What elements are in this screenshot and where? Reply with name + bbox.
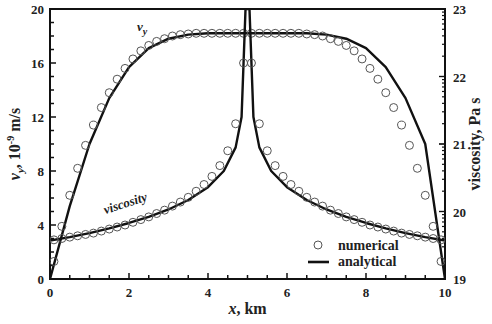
legend-numerical-marker xyxy=(314,241,322,249)
viscosity-annotation: viscosity xyxy=(102,189,149,217)
x-tick-label: 8 xyxy=(363,285,370,300)
y-right-tick-label: 20 xyxy=(453,205,466,220)
y-left-tick-label: 8 xyxy=(38,164,45,179)
v-y-numerical-marker xyxy=(89,121,97,129)
viscosity-numerical-marker xyxy=(279,172,287,180)
vy-annotation: vy xyxy=(137,19,148,37)
y-left-tick-label: 0 xyxy=(38,272,45,287)
legend: numericalanalytical xyxy=(308,238,399,269)
v-y-numerical-marker xyxy=(421,191,429,199)
y-left-tick-label: 12 xyxy=(31,110,44,125)
v-y-numerical-marker xyxy=(398,121,406,129)
legend-numerical-label: numerical xyxy=(338,238,399,253)
v-y-numerical-marker xyxy=(405,141,413,149)
v-y-numerical-marker xyxy=(429,222,437,230)
v-y-numerical-marker xyxy=(342,41,350,49)
y-right-tick-label: 19 xyxy=(453,272,467,287)
viscosity-numerical-marker xyxy=(208,172,216,180)
x-axis-title: x, km xyxy=(227,300,267,317)
viscosity-numerical-marker xyxy=(263,147,271,155)
viscosity-numerical-marker xyxy=(216,162,224,170)
chart: 02468100481216201920212223vyviscosityx, … xyxy=(0,0,492,324)
viscosity-numerical-marker xyxy=(255,120,263,128)
viscosity-numerical-marker xyxy=(224,147,232,155)
y-left-tick-label: 16 xyxy=(31,56,45,71)
y-left-tick-label: 4 xyxy=(38,218,45,233)
v-y-numerical-marker xyxy=(390,104,398,112)
v-y-numerical-marker xyxy=(374,75,382,83)
x-tick-label: 2 xyxy=(126,285,133,300)
v-y-numerical-marker xyxy=(137,47,145,55)
y-right-tick-label: 23 xyxy=(453,2,467,17)
y-right-tick-label: 21 xyxy=(453,137,466,152)
v-y-numerical-marker xyxy=(334,37,342,45)
x-tick-label: 4 xyxy=(205,285,212,300)
v-y-numerical-marker xyxy=(350,47,358,55)
v-y-numerical-marker xyxy=(358,55,366,63)
legend-analytical-label: analytical xyxy=(338,254,396,269)
viscosity-numerical-marker xyxy=(271,162,279,170)
v-y-numerical-marker xyxy=(413,164,421,172)
y-right-axis-title: viscosity, Pa s xyxy=(466,98,484,191)
v-y-numerical-marker xyxy=(366,64,374,72)
y-right-tick-label: 22 xyxy=(453,70,466,85)
x-tick-label: 6 xyxy=(284,285,291,300)
x-tick-label: 0 xyxy=(47,285,54,300)
v-y-numerical-marker xyxy=(382,89,390,97)
viscosity-numerical-marker xyxy=(200,181,208,189)
v-y-numerical-marker xyxy=(74,164,82,172)
viscosity-numerical-marker xyxy=(287,181,295,189)
y-left-tick-label: 20 xyxy=(31,2,44,17)
x-tick-label: 10 xyxy=(439,285,452,300)
y-left-axis-title: vy, 10-9 m/s xyxy=(5,108,26,180)
viscosity-numerical-marker xyxy=(232,120,240,128)
